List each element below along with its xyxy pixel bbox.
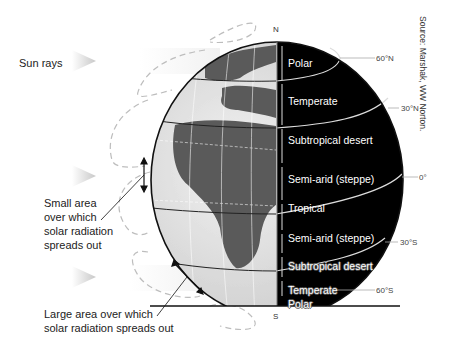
latitude-30n: 30°N bbox=[401, 104, 419, 113]
small-area-line-2: over which bbox=[44, 210, 113, 224]
north-label: N bbox=[273, 25, 279, 34]
zone-subtropical-desert-south: Subtropical desert bbox=[288, 260, 373, 272]
sun-rays-label: Sun rays bbox=[19, 56, 62, 70]
zone-semi-arid-north: Semi-arid (steppe) bbox=[288, 173, 374, 185]
south-label: S bbox=[273, 312, 278, 321]
latitude-equator: 0° bbox=[419, 173, 427, 182]
large-area-line-2: solar radiation spreads out bbox=[44, 321, 174, 335]
large-area-line-1: Large area over which bbox=[44, 307, 174, 321]
small-area-line-4: spreads out bbox=[44, 238, 113, 252]
large-area-label: Large area over which solar radiation sp… bbox=[44, 307, 174, 335]
zone-temperate-south: Temperate bbox=[288, 284, 338, 296]
source-credit: Source: Marshak, WW Norton. bbox=[418, 16, 428, 131]
zone-tropical: Tropical bbox=[288, 202, 325, 214]
small-area-line-3: solar radiation bbox=[44, 224, 113, 238]
latitude-30s: 30°S bbox=[400, 238, 417, 247]
zone-temperate-north: Temperate bbox=[288, 95, 338, 107]
zone-semi-arid-south: Semi-arid (steppe) bbox=[288, 232, 374, 244]
zone-polar-north: Polar bbox=[288, 57, 313, 69]
zone-polar-south: Polar bbox=[288, 298, 313, 310]
small-area-label: Small area over which solar radiation sp… bbox=[44, 196, 113, 252]
globe-illustration bbox=[0, 0, 460, 348]
latitude-60n: 60°N bbox=[376, 54, 394, 63]
small-area-line-1: Small area bbox=[44, 196, 113, 210]
zone-subtropical-desert-north: Subtropical desert bbox=[288, 134, 373, 146]
climate-zones-diagram: Sun rays Small area over which solar rad… bbox=[0, 0, 460, 348]
latitude-60s: 60°S bbox=[376, 286, 393, 295]
